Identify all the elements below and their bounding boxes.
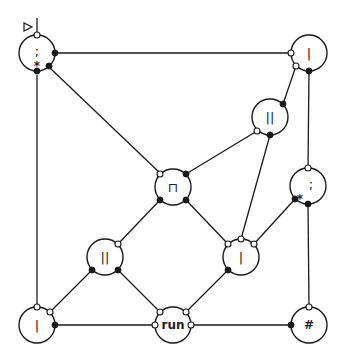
node-label: ⊓ [168, 180, 178, 195]
node-label: ; [35, 44, 39, 59]
port-open [34, 32, 40, 38]
port-open [251, 241, 257, 247]
port-filled [34, 68, 40, 74]
node-n10[interactable]: # [291, 307, 327, 343]
edge-n2-n5 [308, 71, 309, 168]
edge-n1-n4 [50, 68, 160, 173]
port-open [152, 322, 158, 328]
entry-arrow-icon [24, 23, 32, 31]
node-label: || [266, 110, 275, 125]
node-label: | [35, 318, 39, 333]
port-open [157, 309, 163, 315]
port-filled [280, 101, 286, 107]
port-open [293, 63, 299, 69]
port-filled [183, 197, 189, 203]
edge-n5-n10 [308, 204, 309, 307]
port-filled [52, 50, 58, 56]
port-open [115, 241, 121, 247]
edge-n4-n6 [118, 200, 160, 244]
edge-n6-n8 [50, 270, 92, 312]
port-filled [292, 196, 298, 202]
edge-n4-n7 [186, 200, 228, 244]
port-open [254, 128, 260, 134]
edge-n7-n9 [186, 270, 228, 312]
port-open [34, 304, 40, 310]
port-open [157, 171, 163, 177]
port-filled [89, 267, 95, 273]
node-label: | [239, 250, 243, 265]
port-filled [306, 68, 312, 74]
port-filled [46, 63, 52, 69]
port-open [183, 309, 189, 315]
port-filled [305, 201, 311, 207]
port-filled [183, 171, 189, 177]
port-open [225, 241, 231, 247]
edge-n6-n9 [118, 270, 160, 312]
port-filled [225, 267, 231, 273]
node-label: || [101, 250, 110, 265]
port-open [238, 236, 244, 242]
port-open [188, 322, 194, 328]
node-label: ; [309, 177, 313, 192]
port-open [306, 304, 312, 310]
port-open [305, 165, 311, 171]
port-open [288, 50, 294, 56]
port-filled [157, 197, 163, 203]
port-filled [115, 267, 121, 273]
edge-n3-n7 [241, 135, 270, 239]
edge-n2-n3 [283, 66, 296, 104]
port-filled [267, 132, 273, 138]
net-diagram: ; * | || ⊓ ; * || | | run # [0, 0, 344, 361]
port-filled [288, 322, 294, 328]
edge-n3-n4 [186, 131, 257, 174]
port-filled [52, 322, 58, 328]
node-label: | [307, 46, 311, 61]
edge-n5-n7 [254, 199, 295, 244]
port-open [47, 309, 53, 315]
node-label: run [161, 318, 184, 332]
node-label: # [304, 318, 314, 332]
